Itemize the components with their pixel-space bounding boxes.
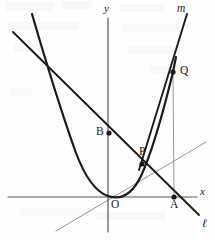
point-label-q: Q [180,65,188,77]
figure-canvas [0,0,215,240]
x-axis-label: x [200,186,205,197]
origin-label: O [111,199,119,211]
line-m [139,14,187,170]
point-label-a: A [170,199,178,211]
vertical-segment-q-to-a [173,72,174,197]
line-l [13,32,199,215]
y-axis-label: y [104,3,109,14]
line-l-label: ℓ [202,218,207,230]
point-label-b: B [96,126,104,138]
point-marker-b [106,130,111,135]
thin-diagonal-line [56,142,206,231]
point-label-p: P [139,146,145,158]
point-marker-p [139,161,144,166]
point-marker-q [170,69,175,74]
geometry-figure: y x O m ℓ BPQA [0,0,215,240]
line-m-label: m [177,3,185,15]
